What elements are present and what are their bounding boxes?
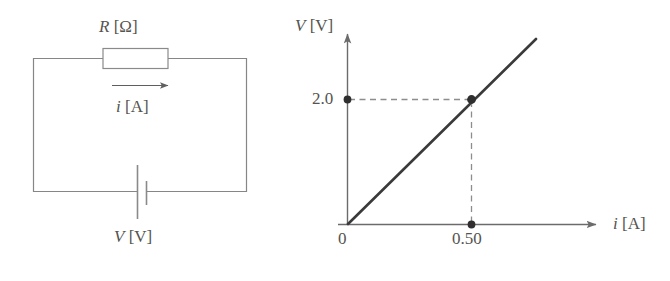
origin-label: 0 xyxy=(338,230,347,247)
y-axis-label: V [V] xyxy=(295,17,333,34)
y-axis-tick-label: 2.0 xyxy=(312,90,333,107)
x-axis-label: i [A] xyxy=(613,215,646,232)
resistor-label: R [Ω] xyxy=(99,18,138,35)
data-line xyxy=(348,39,536,224)
x-axis-tick-label: 0.50 xyxy=(452,230,482,247)
point-on-x-axis xyxy=(468,221,476,229)
physics-figure: R [Ω] i [A] V [V] V [V] i [A] 2.0 0 0.50 xyxy=(0,0,670,281)
resistor-symbol xyxy=(103,49,168,69)
point-on-line xyxy=(467,95,476,104)
vi-graph xyxy=(338,34,596,228)
voltage-source-label: V [V] xyxy=(114,228,152,245)
point-on-y-axis xyxy=(344,96,352,104)
circuit-diagram xyxy=(33,49,247,220)
figure-drawing-layer xyxy=(0,0,670,281)
current-label: i [A] xyxy=(116,98,149,115)
